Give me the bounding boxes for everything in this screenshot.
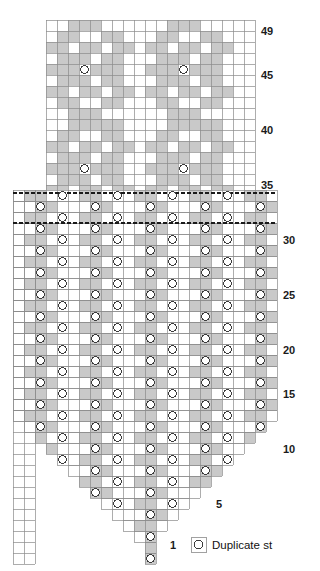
chart-cell-shaded xyxy=(145,212,156,223)
chart-cell-shaded xyxy=(123,141,134,152)
chart-cell-shaded xyxy=(211,130,222,141)
chart-cell-shaded xyxy=(200,190,211,201)
duplicate-stitch-symbol xyxy=(169,192,177,200)
duplicate-stitch-symbol xyxy=(59,324,67,332)
chart-cell-shaded xyxy=(134,432,145,443)
duplicate-stitch-symbol xyxy=(257,225,265,233)
duplicate-stitch-symbol xyxy=(169,214,177,222)
chart-cell-shaded xyxy=(255,256,266,267)
duplicate-stitch-symbol xyxy=(147,489,155,497)
duplicate-stitch-symbol xyxy=(37,203,45,211)
chart-cell-shaded xyxy=(112,75,123,86)
chart-cell-shaded xyxy=(200,130,211,141)
duplicate-stitch-symbol xyxy=(37,313,45,321)
chart-cell-shaded xyxy=(101,333,112,344)
duplicate-stitch-symbol xyxy=(114,214,122,222)
duplicate-stitch-symbol xyxy=(92,357,100,365)
chart-cell-shaded xyxy=(24,344,35,355)
duplicate-stitch-symbol xyxy=(92,203,100,211)
duplicate-stitch-symbol xyxy=(59,412,67,420)
chart-cell-shaded xyxy=(90,20,101,31)
chart-cell-shaded xyxy=(200,64,211,75)
duplicate-stitch-symbol xyxy=(147,291,155,299)
chart-cell-shaded xyxy=(79,190,90,201)
row-label-1: 1 xyxy=(170,539,176,551)
chart-cell-shaded xyxy=(189,300,200,311)
chart-cell-shaded xyxy=(178,141,189,152)
chart-cell-shaded xyxy=(46,245,57,256)
chart-cell-shaded xyxy=(112,64,123,75)
duplicate-stitch-symbol xyxy=(37,335,45,343)
duplicate-stitch-symbol xyxy=(202,401,210,409)
chart-cell-shaded xyxy=(167,108,178,119)
chart-cell-shaded xyxy=(156,42,167,53)
chart-cell-shaded xyxy=(112,141,123,152)
chart-cell-shaded xyxy=(211,465,222,476)
chart-cell-shaded xyxy=(189,64,200,75)
duplicate-stitch-symbol xyxy=(257,357,265,365)
chart-cell-shaded xyxy=(222,86,233,97)
chart-cell-shaded xyxy=(46,201,57,212)
chart-cell-shaded xyxy=(24,234,35,245)
chart-cell-shaded xyxy=(189,278,200,289)
chart-cell-shaded xyxy=(79,86,90,97)
chart-cell-shaded xyxy=(68,75,79,86)
duplicate-stitch-symbol xyxy=(224,192,232,200)
duplicate-stitch-symbol xyxy=(147,467,155,475)
chart-cell-shaded xyxy=(145,498,156,509)
chart-cell-shaded xyxy=(211,163,222,174)
duplicate-stitch-symbol xyxy=(59,192,67,200)
chart-cell-shaded xyxy=(35,212,46,223)
chart-cell-shaded xyxy=(24,256,35,267)
chart-cell-shaded xyxy=(200,476,211,487)
duplicate-stitch-symbol xyxy=(202,335,210,343)
chart-cell-shaded xyxy=(35,432,46,443)
duplicate-stitch-symbol xyxy=(114,390,122,398)
chart-cell-shaded xyxy=(211,97,222,108)
chart-cell-shaded xyxy=(46,141,57,152)
chart-cell-shaded xyxy=(90,366,101,377)
duplicate-stitch-symbol xyxy=(257,203,265,211)
duplicate-stitch-symbol xyxy=(37,269,45,277)
chart-cell-shaded xyxy=(46,399,57,410)
chart-cell-shaded xyxy=(90,234,101,245)
duplicate-stitch-symbol xyxy=(147,247,155,255)
chart-cell-shaded xyxy=(156,163,167,174)
chart-cell-shaded xyxy=(189,20,200,31)
chart-cell-shaded xyxy=(112,42,123,53)
chart-cell-shaded xyxy=(200,31,211,42)
chart-cell-shaded xyxy=(134,212,145,223)
duplicate-stitch-symbol xyxy=(59,302,67,310)
chart-cell-shaded xyxy=(156,223,167,234)
row-label-15: 15 xyxy=(283,388,295,400)
chart-cell-shaded xyxy=(266,201,277,212)
duplicate-stitch-symbol xyxy=(169,434,177,442)
chart-cell-shaded xyxy=(35,366,46,377)
chart-cell-shaded xyxy=(200,278,211,289)
chart-cell-shaded xyxy=(134,476,145,487)
chart-cell-shaded xyxy=(189,366,200,377)
duplicate-stitch-symbol xyxy=(169,302,177,310)
duplicate-stitch-symbol xyxy=(92,335,100,343)
duplicate-stitch-symbol xyxy=(224,434,232,442)
chart-cell-shaded xyxy=(255,212,266,223)
duplicate-stitch-symbol xyxy=(59,280,67,288)
chart-cell-shaded xyxy=(156,245,167,256)
chart-cell-shaded xyxy=(156,141,167,152)
duplicate-stitch-symbol xyxy=(224,258,232,266)
duplicate-stitch-symbol xyxy=(59,258,67,266)
duplicate-stitch-symbol xyxy=(37,291,45,299)
chart-cell-shaded xyxy=(134,498,145,509)
chart-cell-shaded xyxy=(266,289,277,300)
chart-cell-shaded xyxy=(200,410,211,421)
chart-cell-shaded xyxy=(90,42,101,53)
chart-cell-shaded xyxy=(79,432,90,443)
chart-cell-shaded xyxy=(189,344,200,355)
chart-cell-shaded xyxy=(145,388,156,399)
duplicate-stitch-symbol xyxy=(92,313,100,321)
duplicate-stitch-symbol xyxy=(81,165,89,173)
chart-cell-shaded xyxy=(200,212,211,223)
chart-cell-shaded xyxy=(57,130,68,141)
chart-cell-shaded xyxy=(24,322,35,333)
chart-cell-shaded xyxy=(211,377,222,388)
